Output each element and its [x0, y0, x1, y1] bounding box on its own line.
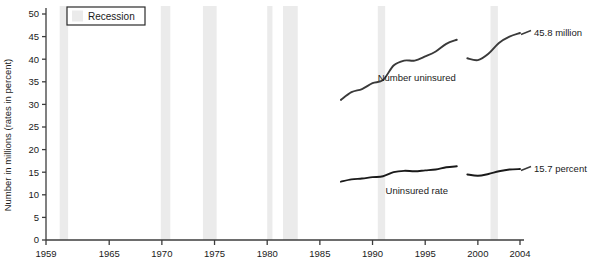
- y-tick-label: 0: [34, 234, 39, 245]
- legend-label-recession: Recession: [88, 11, 135, 22]
- y-tick-label: 15: [28, 167, 39, 178]
- y-tick-label: 50: [28, 8, 39, 19]
- x-tick-label: 1959: [35, 248, 56, 259]
- recession-band: [161, 6, 170, 240]
- recession-bands-group: [60, 6, 498, 240]
- series-line: [341, 40, 457, 100]
- y-tick-label: 35: [28, 76, 39, 87]
- y-tick-label: 10: [28, 189, 39, 200]
- x-axis-group: 1959196519701975198019851990199520002004: [35, 240, 530, 259]
- y-axis-title: Number in millions (rates in percent): [2, 59, 13, 212]
- x-tick-label: 2000: [467, 248, 488, 259]
- x-tick-label: 1970: [151, 248, 172, 259]
- chart-container: 05101520253035404550 1959196519701975198…: [0, 0, 592, 270]
- leader-line: [521, 167, 531, 171]
- series-label: Number uninsured: [378, 72, 456, 83]
- recession-band: [203, 6, 217, 240]
- x-tick-label: 1980: [257, 248, 278, 259]
- end-value-label: 15.7 percent: [534, 163, 587, 174]
- x-tick-label: 1990: [362, 248, 383, 259]
- legend-group[interactable]: Recession: [67, 7, 145, 25]
- x-tick-label: 1975: [204, 248, 225, 259]
- recession-band: [283, 6, 298, 240]
- recession-band: [267, 6, 272, 240]
- x-tick-label: 1995: [415, 248, 436, 259]
- legend-swatch-recession: [72, 11, 83, 22]
- uninsured-line-chart: 05101520253035404550 1959196519701975198…: [0, 0, 592, 270]
- y-axis-group: 05101520253035404550: [28, 8, 46, 245]
- end-value-label: 45.8 million: [534, 27, 582, 38]
- y-tick-label: 30: [28, 99, 39, 110]
- series-line: [341, 166, 457, 181]
- y-tick-label: 25: [28, 121, 39, 132]
- x-tick-label: 1985: [309, 248, 330, 259]
- recession-band: [60, 6, 68, 240]
- y-tick-label: 5: [34, 212, 39, 223]
- x-tick-label: 1965: [99, 248, 120, 259]
- y-tick-label: 20: [28, 144, 39, 155]
- x-tick-label: 2004: [509, 248, 530, 259]
- y-tick-label: 45: [28, 31, 39, 42]
- series-label: Uninsured rate: [386, 185, 448, 196]
- y-tick-label: 40: [28, 54, 39, 65]
- recession-band: [378, 6, 385, 240]
- recession-band: [491, 6, 498, 240]
- leader-line: [521, 30, 531, 34]
